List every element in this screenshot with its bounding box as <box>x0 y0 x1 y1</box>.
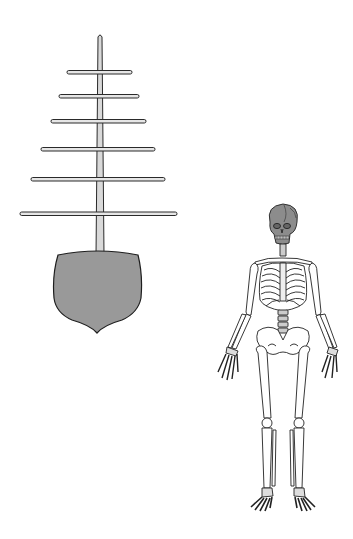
skeleton-illustration <box>218 204 338 511</box>
yard-1 <box>67 71 132 75</box>
diagram-canvas <box>0 0 353 539</box>
yard-5 <box>31 178 165 182</box>
ribcage <box>259 263 306 311</box>
ship-mast <box>96 35 104 256</box>
yard-6 <box>20 212 177 216</box>
right-femur <box>295 346 310 418</box>
yard-3 <box>51 120 146 124</box>
right-tibia-fibula <box>290 428 304 488</box>
yard-2 <box>59 95 139 99</box>
left-femur <box>256 346 271 418</box>
yard-4 <box>41 148 155 152</box>
left-patella <box>262 418 272 428</box>
left-tibia-fibula <box>262 428 276 488</box>
cervical-spine <box>280 244 286 256</box>
left-foot <box>251 488 273 511</box>
skull <box>269 204 297 245</box>
right-arm <box>309 263 338 378</box>
right-foot <box>294 488 315 511</box>
ship-illustration <box>20 35 177 333</box>
right-patella <box>294 418 304 428</box>
lumbar-spine <box>278 310 288 333</box>
left-arm <box>218 263 258 380</box>
ship-hull <box>54 251 142 333</box>
